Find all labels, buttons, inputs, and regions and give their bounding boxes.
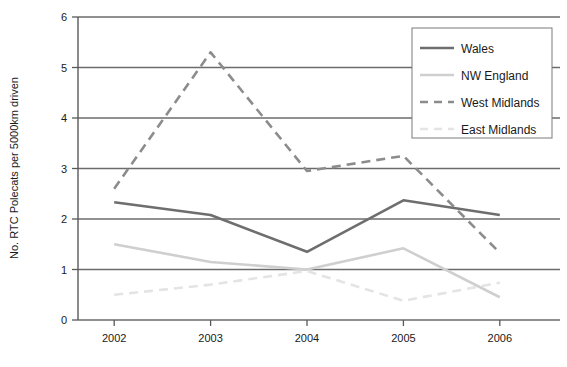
y-axis-tick-label: 0 bbox=[61, 314, 67, 326]
y-axis-title: No. RTC Polecats per 5000km driven bbox=[8, 77, 20, 259]
y-axis-tick-label: 2 bbox=[61, 213, 67, 225]
chart-container: 0123456 20022003200420052006 No. RTC Pol… bbox=[0, 0, 567, 367]
line-chart: 0123456 20022003200420052006 No. RTC Pol… bbox=[0, 0, 567, 367]
legend-label-west-midlands: West Midlands bbox=[461, 96, 539, 110]
x-axis-tick-label: 2003 bbox=[198, 332, 222, 344]
y-axis-tick-label: 3 bbox=[61, 163, 67, 175]
legend-label-east-midlands: East Midlands bbox=[461, 123, 536, 137]
legend-label-nw-england: NW England bbox=[461, 69, 528, 83]
y-axis-tick-label: 6 bbox=[61, 11, 67, 23]
legend-label-wales: Wales bbox=[461, 42, 494, 56]
y-axis-tick-label: 1 bbox=[61, 264, 67, 276]
y-axis-tick-label: 5 bbox=[61, 62, 67, 74]
x-axis-tick-label: 2002 bbox=[102, 332, 126, 344]
x-axis-tick-label: 2005 bbox=[391, 332, 415, 344]
chart-legend: WalesNW EnglandWest MidlandsEast Midland… bbox=[412, 28, 552, 138]
x-axis-tick-label: 2006 bbox=[488, 332, 512, 344]
x-axis-tick-label: 2004 bbox=[295, 332, 319, 344]
y-axis-tick-label: 4 bbox=[61, 112, 67, 124]
